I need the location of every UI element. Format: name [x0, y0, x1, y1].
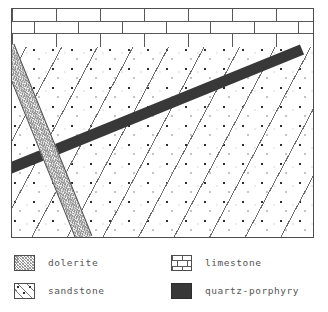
limestone-brick-joint — [232, 34, 233, 47]
limestone-swatch-joint — [177, 261, 178, 265]
legend-item-sandstone: sandstone — [14, 280, 104, 302]
figure-frame — [11, 8, 314, 238]
limestone-brick-joint — [34, 22, 35, 34]
limestone-brick-course — [12, 22, 313, 35]
quartz-porphyry-swatch-icon — [171, 283, 192, 299]
limestone-brick-joint — [166, 22, 167, 34]
legend-item-quartz-porphyry: quartz-porphyry — [171, 280, 299, 302]
limestone-brick-joint — [188, 34, 189, 47]
legend-label-sandstone: sandstone — [48, 286, 104, 296]
limestone-brick-joint — [56, 34, 57, 47]
limestone-swatch-joint — [172, 256, 173, 260]
legend-label-dolerite: dolerite — [48, 258, 98, 268]
geological-cross-section — [11, 8, 314, 238]
limestone-brick-joint — [122, 22, 123, 34]
limestone-brick-joint — [254, 22, 255, 34]
sandstone-swatch-icon — [14, 283, 35, 299]
limestone-brick-joint — [188, 9, 189, 21]
dolerite-swatch-icon — [14, 255, 35, 271]
limestone-swatch-joint — [172, 267, 173, 271]
legend-column-right: limestone quartz-porphyry — [171, 252, 299, 308]
limestone-brick-joint — [78, 22, 79, 34]
legend-column-left: dolerite sandstone — [14, 252, 104, 308]
legend-item-limestone: limestone — [171, 252, 299, 274]
limestone-brick-joint — [100, 9, 101, 21]
limestone-swatch-joint — [182, 267, 183, 271]
limestone-brick-joint — [144, 34, 145, 47]
legend: dolerite sandstone limestone quartz-porp… — [11, 252, 321, 308]
limestone-brick-joint — [56, 9, 57, 21]
legend-label-quartz-porphyry: quartz-porphyry — [205, 286, 299, 296]
cross-section-figure-page: dolerite sandstone limestone quartz-porp… — [0, 0, 328, 312]
legend-label-limestone: limestone — [205, 258, 261, 268]
limestone-brick-joint — [298, 22, 299, 34]
legend-item-dolerite: dolerite — [14, 252, 104, 274]
limestone-band — [12, 9, 313, 47]
limestone-brick-course — [12, 9, 313, 22]
limestone-brick-joint — [144, 9, 145, 21]
limestone-brick-course — [12, 34, 313, 47]
limestone-brick-joint — [232, 9, 233, 21]
limestone-swatch-course — [172, 267, 192, 271]
limestone-swatch-icon — [171, 255, 192, 271]
limestone-brick-joint — [276, 34, 277, 47]
limestone-brick-joint — [12, 9, 13, 21]
limestone-swatch-joint — [182, 256, 183, 260]
limestone-swatch-joint — [187, 261, 188, 265]
limestone-brick-joint — [276, 9, 277, 21]
limestone-brick-joint — [100, 34, 101, 47]
limestone-brick-joint — [210, 22, 211, 34]
